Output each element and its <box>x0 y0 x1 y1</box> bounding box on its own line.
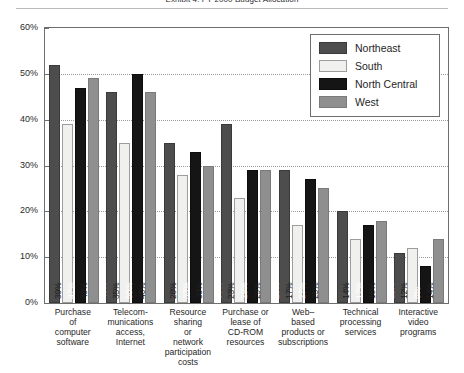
x-axis-category-label: Interactivevideoprograms <box>389 307 447 337</box>
bar-column: 17% <box>292 28 303 303</box>
bar: 50% <box>132 74 143 303</box>
bar-value-label: 49% <box>80 283 89 299</box>
bar-value-label: 35% <box>156 283 165 299</box>
bar-group: 35%28%33%30% <box>160 28 218 303</box>
x-axis-category-line: Purchase or <box>217 307 275 317</box>
bar-value-label: 39% <box>213 283 222 299</box>
bar-column: 46% <box>106 28 117 303</box>
title-divider <box>16 8 448 9</box>
x-axis-category-line: costs <box>159 357 217 367</box>
x-axis-category-line: programs <box>389 327 447 337</box>
bar: 47% <box>75 88 86 303</box>
bar-value-label: 52% <box>44 283 50 299</box>
bar-value-label: 30% <box>195 283 204 299</box>
bar-column: 29% <box>279 28 290 303</box>
bar-column: 46% <box>145 28 156 303</box>
bar-value-label: 50% <box>124 283 133 299</box>
legend-item[interactable]: South <box>319 58 433 74</box>
legend-swatch-icon <box>319 96 347 108</box>
bar-column: 29% <box>260 28 271 303</box>
bar-value-label: 8% <box>412 287 421 299</box>
bar: 33% <box>190 152 201 303</box>
bar-value-label: 33% <box>182 283 191 299</box>
legend-item-label: West <box>355 96 379 108</box>
y-axis-tick-label: 60% <box>2 22 38 32</box>
bar: 49% <box>88 78 99 303</box>
x-axis-category-line: of <box>44 317 102 327</box>
x-axis-category-line: based <box>274 317 332 327</box>
bar-value-label: 11% <box>386 283 395 299</box>
y-axis-tick-label: 40% <box>2 114 38 124</box>
x-axis-category-line: computer <box>44 327 102 337</box>
bar-column: 33% <box>190 28 201 303</box>
bar-value-label: 20% <box>329 283 338 299</box>
bar: 46% <box>145 92 156 303</box>
bar-group: 39%23%29%29% <box>218 28 276 303</box>
bar-column: 39% <box>62 28 73 303</box>
bar-group: 52%39%47%49% <box>45 28 103 303</box>
bar-value-label: 29% <box>252 283 261 299</box>
y-axis-tick-mark <box>45 303 49 304</box>
legend-item[interactable]: West <box>319 94 433 110</box>
chart-legend: NortheastSouthNorth CentralWest <box>310 34 440 117</box>
x-axis-category-label: Telecom-municationsaccess,Internet <box>102 307 160 347</box>
bar-value-label: 17% <box>355 283 364 299</box>
y-axis-tick-label: 10% <box>2 251 38 261</box>
x-axis-category-line: Interactive <box>389 307 447 317</box>
bar-column: 50% <box>132 28 143 303</box>
y-axis: 0%10%20%30%40%50%60% <box>2 27 40 304</box>
x-axis-category-line: processing <box>332 317 390 327</box>
bar-value-label: 12% <box>399 283 408 299</box>
bar-value-label: 23% <box>226 283 235 299</box>
legend-item[interactable]: North Central <box>319 76 433 92</box>
bar-group: 46%35%50%46% <box>103 28 161 303</box>
y-axis-tick-label: 50% <box>2 68 38 78</box>
bar: 35% <box>119 143 130 303</box>
x-axis-category-line: Resource <box>159 307 217 317</box>
x-axis-category-label: Purchase orlease ofCD-ROMresources <box>217 307 275 347</box>
x-axis-category-label: Purchaseofcomputersoftware <box>44 307 102 347</box>
bar-value-label: 39% <box>54 283 63 299</box>
bar-value-label: 29% <box>271 283 280 299</box>
x-axis-category-line: sharing <box>159 317 217 327</box>
bar-value-label: 17% <box>284 283 293 299</box>
bar-column: 39% <box>221 28 232 303</box>
bar-value-label: 47% <box>67 283 76 299</box>
chart-title: Exhibit 4. FY 2000 Budget Allocation <box>0 0 464 4</box>
x-axis-category-line: Telecom- <box>102 307 160 317</box>
legend-item[interactable]: Northeast <box>319 40 433 56</box>
bar-column: 28% <box>177 28 188 303</box>
bar-value-label: 27% <box>297 283 306 299</box>
x-axis-category-line: network <box>159 337 217 347</box>
bar-value-label: 14% <box>342 283 351 299</box>
x-axis-category-line: subscriptions <box>274 337 332 347</box>
legend-swatch-icon <box>319 60 347 72</box>
y-axis-tick-label: 20% <box>2 205 38 215</box>
legend-swatch-icon <box>319 42 347 54</box>
bar-column: 29% <box>247 28 258 303</box>
bar-value-label: 25% <box>310 283 319 299</box>
bar-chart: Exhibit 4. FY 2000 Budget Allocation 0%1… <box>0 0 464 373</box>
bar: 39% <box>221 124 232 303</box>
x-axis-category-line: lease of <box>217 317 275 327</box>
x-axis-category-line: access, <box>102 327 160 337</box>
bar-column: 35% <box>164 28 175 303</box>
x-axis-category-line: or <box>159 327 217 337</box>
y-axis-tick-label: 30% <box>2 160 38 170</box>
x-axis-category-line: resources <box>217 337 275 347</box>
x-axis-category-line: software <box>44 337 102 347</box>
x-axis-category-line: Web– <box>274 307 332 317</box>
x-axis-category-line: CD-ROM <box>217 327 275 337</box>
x-axis-category-line: services <box>332 327 390 337</box>
x-axis-category-line: Purchase <box>44 307 102 317</box>
bar-column: 35% <box>119 28 130 303</box>
x-axis-category-label: Web–basedproducts orsubscriptions <box>274 307 332 347</box>
legend-item-label: South <box>355 60 382 72</box>
bar-column: 49% <box>88 28 99 303</box>
bar: 35% <box>164 143 175 303</box>
bar-value-label: 14% <box>425 283 434 299</box>
bar: 46% <box>106 92 117 303</box>
bar-column: 30% <box>203 28 214 303</box>
x-axis-category-label: Technicalprocessingservices <box>332 307 390 337</box>
plot-area: 52%39%47%49%46%35%50%46%35%28%33%30%39%2… <box>44 27 449 304</box>
